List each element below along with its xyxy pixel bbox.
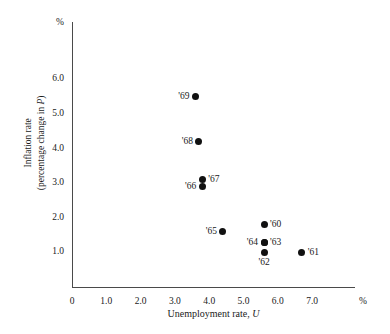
data-point-marker [261,239,268,246]
y-axis-unit-label: % [34,18,64,28]
data-point-label: '63 [270,238,281,248]
data-point-marker [261,249,268,256]
data-point-label: '61 [308,248,319,258]
x-tick-label: 2.0 [126,297,156,307]
x-axis-title: Unemployment rate, U [72,308,355,319]
data-point-label: '69 [178,92,189,102]
data-point-marker [219,228,226,235]
data-point-label: '67 [208,175,219,185]
phillips-curve-scatter-chart: % % 0 1.02.03.04.05.06.0 1.02.03.04.05.0… [0,0,390,334]
data-point-label: '68 [182,137,193,147]
x-tick-label: 3.0 [160,297,190,307]
data-point-marker [261,221,268,228]
data-point-label: '66 [185,182,196,192]
x-tick-label: 1.0 [91,297,121,307]
y-axis-line [72,22,73,287]
x-tick-label: 6.0 [263,297,293,307]
x-tick-label: 5.0 [229,297,259,307]
x-tick-label: 4.0 [194,297,224,307]
y-axis-title-line2: (percentage change in P) [35,63,48,223]
x-axis-line [72,287,355,288]
x-axis-unit-label: % [359,297,367,307]
data-point-label: '65 [206,227,217,237]
y-axis-title-line1: Inflation rate [23,118,33,167]
y-axis-title: Inflation rate (percentage change in P) [22,63,48,223]
data-point-marker [298,249,305,256]
y-tick-label: 1.0 [34,247,64,257]
x-tick-label: 7.0 [297,297,327,307]
data-point-marker [199,183,206,190]
data-point-label: '60 [270,220,281,230]
data-point-label: '64 [247,238,258,248]
data-point-marker [192,93,199,100]
origin-tick-label: 0 [57,297,87,307]
data-point-label: '62 [258,258,269,268]
data-point-marker [195,138,202,145]
